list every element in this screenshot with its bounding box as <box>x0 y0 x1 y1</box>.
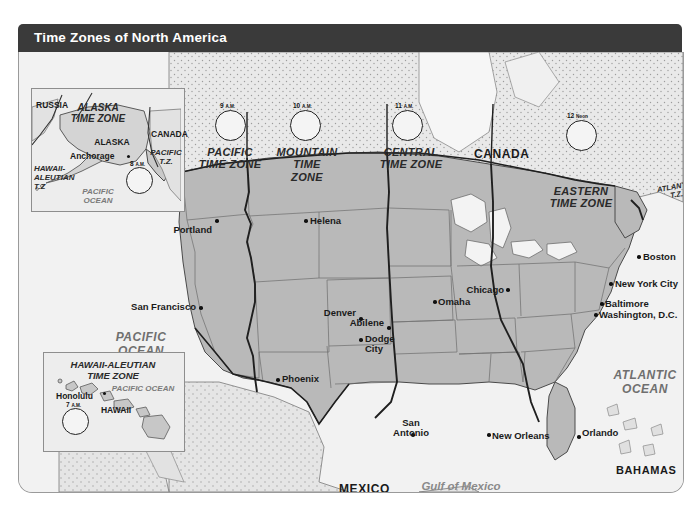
tz-label-mountain: MOUNTAINTIMEZONE <box>277 146 338 183</box>
tz-label-eastern: EASTERNTIME ZONE <box>550 185 613 210</box>
sea-label-gulf-of-mexico: Gulf of Mexico <box>421 480 500 492</box>
tz-label-pacific: PACIFICTIME ZONE <box>199 146 262 171</box>
clock-eastern-12noon: 12 Noon <box>566 120 598 152</box>
inset-map-hawaii: HAWAII-ALEUTIANTIME ZONE Honolulu HAWAII… <box>43 352 185 452</box>
clock-mountain-10am: 10 A.M. <box>290 110 322 142</box>
map-title-bar: Time Zones of North America <box>18 24 682 52</box>
country-label-bahamas: BAHAMAS <box>616 464 676 476</box>
clock-alaska-8am: 8 A.M. <box>126 167 154 195</box>
tz-label-central: CENTRALTIME ZONE <box>380 146 443 171</box>
clock-central-11am: 11 A.M. <box>392 110 424 142</box>
map-panel: PACIFICTIME ZONE MOUNTAINTIMEZONE CENTRA… <box>18 52 684 493</box>
ocean-label-atlantic: ATLANTICOCEAN <box>613 369 676 397</box>
page-title: Time Zones of North America <box>34 30 227 45</box>
clock-hawaii-7am: 7 A.M. <box>62 408 90 436</box>
time-zone-map-page: Time Zones of North America <box>0 0 699 516</box>
inset-map-alaska: RUSSIA ALASKATIME ZONE CANADA ALASKA Anc… <box>31 88 185 212</box>
country-label-mexico: MEXICO <box>339 482 390 493</box>
clock-pacific-9am: 9 A.M. <box>215 110 247 142</box>
country-label-canada: CANADA <box>474 147 530 161</box>
